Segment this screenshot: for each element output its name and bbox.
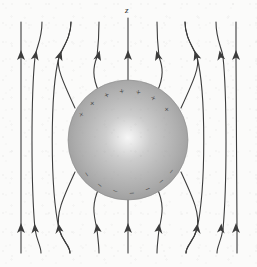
field-line-7-seg2 [236, 57, 237, 230]
exit-line-left-inner [94, 188, 99, 229]
entry-line-right-outer [181, 22, 198, 108]
arrowhead-icon [55, 223, 63, 234]
conducting-sphere [68, 80, 188, 200]
arrowhead-icon [193, 223, 201, 234]
entry-line-left-inner [94, 57, 99, 92]
figure-conducting-sphere-in-uniform-field: +++++++ −−−−−−− z [0, 0, 257, 267]
electric-field-diagram: +++++++ −−−−−−− [0, 0, 257, 267]
exit-line-right-inner [157, 188, 162, 229]
arrowhead-icon [232, 223, 240, 233]
z-axis-label: z [125, 6, 129, 15]
field-line-6-seg2 [223, 57, 226, 229]
field-line-2-seg3 [35, 229, 41, 253]
field-line-2-seg2 [32, 57, 35, 229]
exit-line-left-inner-down [97, 229, 99, 253]
exit-line-right-inner-down [157, 229, 159, 253]
field-line-5-seg2 [197, 57, 204, 229]
arrowhead-icon [217, 50, 225, 60]
exit-line-left-outer [58, 172, 75, 253]
induced-negative-charge: − [129, 188, 135, 198]
field-line-3-seg2 [52, 57, 59, 229]
entry-line-right-inner [157, 57, 162, 92]
entry-line-left-outer [58, 22, 75, 108]
field-line-6-seg3 [217, 229, 223, 253]
exit-line-right-outer [181, 172, 198, 253]
